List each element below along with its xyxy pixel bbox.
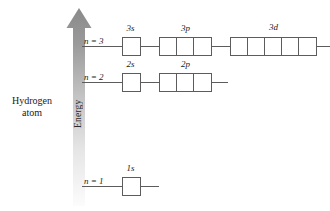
lead-line	[212, 82, 228, 83]
orbital-box	[177, 74, 194, 91]
orbital-box	[194, 38, 211, 55]
lead-line	[82, 46, 122, 47]
orbital-box	[123, 178, 140, 195]
level-label-n1: n = 1	[84, 176, 104, 186]
lead-line	[212, 46, 230, 47]
lead-line	[139, 46, 159, 47]
caption-line-2: atom	[2, 107, 62, 119]
orbital-box	[231, 38, 248, 55]
orbital-box	[160, 38, 177, 55]
energy-level-diagram: Energy Hydrogen atom n = 3 3s 3p 3d	[0, 0, 330, 211]
energy-level-n1: n = 1 1s	[0, 172, 330, 198]
lead-line	[139, 186, 159, 187]
orbital-boxes-3s	[122, 37, 141, 56]
energy-level-n2: n = 2 2s 2p	[0, 68, 330, 94]
subshell-label-2p: 2p	[168, 59, 203, 69]
subshell-label-2s: 2s	[113, 59, 148, 69]
orbital-box	[194, 74, 211, 91]
orbital-box	[248, 38, 265, 55]
orbital-box	[177, 38, 194, 55]
lead-line	[139, 82, 159, 83]
subshell-label-3s: 3s	[113, 23, 148, 33]
orbital-boxes-2p	[159, 73, 212, 92]
orbital-box	[160, 74, 177, 91]
orbital-box	[299, 38, 316, 55]
orbital-boxes-2s	[122, 73, 141, 92]
energy-level-n3: n = 3 3s 3p 3d	[0, 32, 330, 58]
subshell-label-3d: 3d	[256, 22, 291, 32]
lead-line	[317, 46, 330, 47]
orbital-box	[265, 38, 282, 55]
orbital-boxes-3d	[230, 37, 317, 56]
orbital-box	[123, 74, 140, 91]
subshell-label-3p: 3p	[168, 23, 203, 33]
caption-line-1: Hydrogen	[2, 95, 62, 107]
level-label-n2: n = 2	[84, 72, 104, 82]
orbital-box	[282, 38, 299, 55]
subshell-label-1s: 1s	[113, 163, 148, 173]
lead-line	[82, 186, 122, 187]
lead-line	[82, 82, 122, 83]
orbital-boxes-1s	[122, 177, 141, 196]
orbital-boxes-3p	[159, 37, 212, 56]
figure-caption: Hydrogen atom	[2, 95, 62, 119]
orbital-box	[123, 38, 140, 55]
level-label-n3: n = 3	[84, 36, 104, 46]
